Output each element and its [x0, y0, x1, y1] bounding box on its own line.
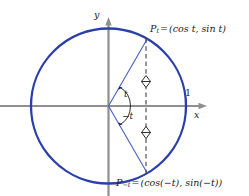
- unit-circle-figure: y x 1 t −t Pt=(cos t, sin t) P−t=(cos(−t…: [0, 0, 249, 196]
- angle-label-negative: −t: [122, 112, 133, 121]
- unit-tick-label: 1: [185, 88, 191, 98]
- y-axis-label: y: [94, 10, 99, 20]
- congruence-tick-lower: [142, 127, 151, 139]
- x-axis-label: x: [194, 110, 199, 120]
- congruence-tick-upper: [142, 76, 151, 88]
- upper-point-equals: =: [159, 23, 169, 34]
- angle-label-positive: t: [124, 90, 128, 99]
- upper-point-coords: (cos t, sin t): [169, 23, 226, 34]
- lower-point-equals: =: [130, 177, 140, 188]
- lower-point-label: P−t=(cos(−t), sin(−t)): [116, 178, 222, 189]
- upper-point-label: Pt=(cos t, sin t): [150, 24, 226, 35]
- lower-point-coords: (cos(−t), sin(−t)): [140, 177, 222, 188]
- y-axis-arrowhead: [105, 17, 111, 26]
- x-axis-arrowhead: [199, 103, 208, 109]
